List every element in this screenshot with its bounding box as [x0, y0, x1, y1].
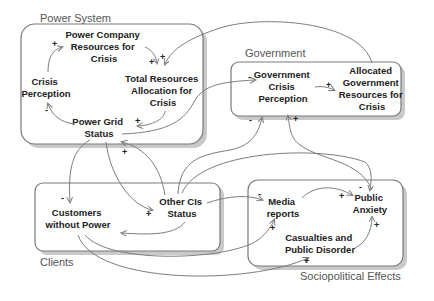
sign-cis-to-anxiety: -: [359, 182, 362, 192]
sign-media-to-anxiety: +: [339, 191, 344, 201]
sign-customers-to-media: +: [270, 223, 275, 233]
causal-loop-diagram: Power System Government Clients Sociopol…: [0, 0, 434, 301]
clients-label: Clients: [40, 256, 74, 268]
sign-grid-to-perception: -: [45, 105, 48, 115]
government-label: Government: [245, 47, 306, 59]
sign-cis-to-grid: +: [122, 147, 127, 157]
node-public-anxiety: Public Anxiety: [353, 192, 388, 215]
sign-grid-to-cis: +: [146, 209, 151, 219]
sign-crisis-to-company: +: [52, 39, 57, 49]
sign-total-to-grid: +: [135, 116, 140, 126]
sign-grid-to-govperception: -: [248, 72, 251, 82]
sign-cis-to-govperception: -: [249, 115, 252, 125]
sign-casualties-to-anxiety: +: [374, 220, 379, 230]
sign-allocated-to-total: +: [160, 52, 165, 62]
node-customers-without-power: Customers without Power: [45, 207, 111, 230]
sign-cis-to-media: -: [258, 189, 261, 199]
sign-grid-to-customers: -: [61, 193, 64, 203]
sign-customers-to-casualties: +: [304, 256, 309, 266]
node-casualties-public-disorder: Casualties and Public Disorder: [285, 232, 356, 255]
sign-anxiety-to-govperception: +: [293, 114, 298, 124]
sociopolitical-label: Sociopolitical Effects: [300, 270, 401, 282]
power-system-label: Power System: [40, 12, 111, 24]
node-media-reports: Media reports: [267, 196, 300, 219]
sign-company-to-total: +: [149, 57, 154, 67]
sign-govperc-to-allocated: +: [326, 80, 331, 90]
